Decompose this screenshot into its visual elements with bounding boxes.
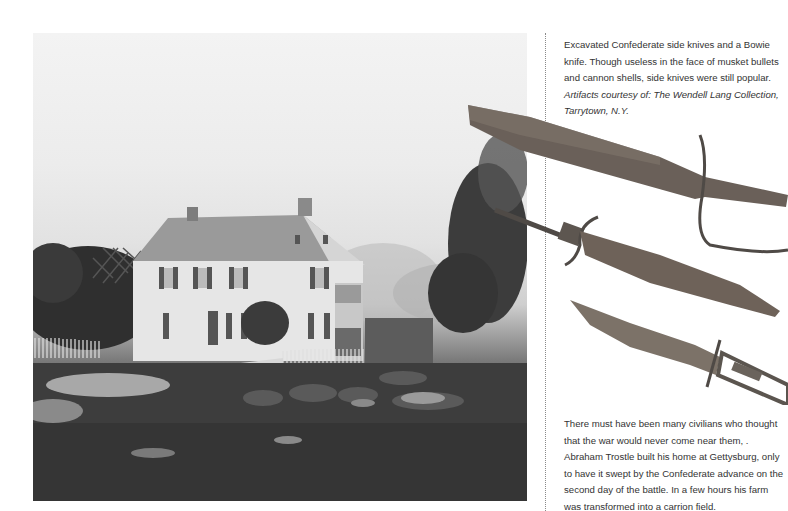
artifact-caption: Excavated Confederate side knives and a …	[564, 37, 786, 120]
photo-caption-text: There must have been many civilians who …	[564, 418, 783, 511]
artifact-caption-text: Excavated Confederate side knives and a …	[564, 39, 779, 83]
farmhouse-photograph	[33, 33, 527, 501]
bowie-knife	[570, 300, 788, 405]
knives-artifact-image	[460, 95, 788, 405]
side-knife-d-guard	[468, 105, 788, 252]
photo-caption: There must have been many civilians who …	[564, 416, 786, 511]
side-knife-cross-guard	[495, 210, 780, 317]
artifact-credit: Artifacts courtesy of: The Wendell Lang …	[564, 87, 786, 120]
photo-illustration	[33, 33, 527, 501]
